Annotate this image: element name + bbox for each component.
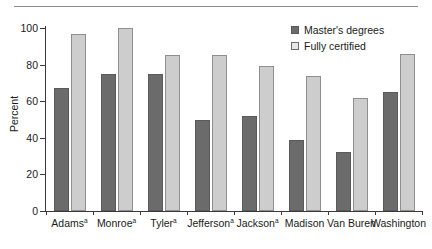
- legend-label: Fully certified: [304, 39, 366, 53]
- bar-masters-degrees: [383, 92, 398, 211]
- x-category-label: Washington: [365, 217, 432, 229]
- chart-legend: Master's degreesFully certified: [291, 23, 384, 55]
- x-tick-mark: [140, 211, 141, 215]
- legend-label: Master's degrees: [304, 23, 384, 37]
- y-tick-mark: [40, 28, 45, 29]
- bar-fully-certified: [306, 76, 321, 211]
- bar-masters-degrees: [54, 88, 69, 211]
- y-tick-mark: [40, 211, 45, 212]
- bar-fully-certified: [165, 55, 180, 211]
- legend-item: Master's degrees: [291, 23, 384, 37]
- x-tick-mark: [328, 211, 329, 215]
- bar-masters-degrees: [101, 74, 116, 211]
- x-tick-mark: [281, 211, 282, 215]
- bar-fully-certified: [400, 54, 415, 211]
- legend-item: Fully certified: [291, 39, 384, 53]
- x-tick-mark: [187, 211, 188, 215]
- bar-masters-degrees: [242, 116, 257, 211]
- bar-chart-figure: Percent 020406080100 AdamsaMonroeaTylera…: [0, 0, 432, 249]
- top-divider-rule: [14, 6, 418, 7]
- y-tick-mark: [40, 101, 45, 102]
- x-tick-mark: [46, 211, 47, 215]
- bar-fully-certified: [353, 98, 368, 211]
- bar-fully-certified: [71, 34, 86, 212]
- y-tick-label: 40: [4, 133, 38, 143]
- x-tick-mark: [234, 211, 235, 215]
- x-tick-mark: [93, 211, 94, 215]
- legend-swatch-icon: [291, 26, 299, 34]
- bar-masters-degrees: [148, 74, 163, 211]
- x-tick-mark: [422, 211, 423, 215]
- y-tick-label: 80: [4, 60, 38, 70]
- y-tick-label: 60: [4, 96, 38, 106]
- bar-fully-certified: [259, 66, 274, 211]
- y-tick-mark: [40, 138, 45, 139]
- legend-swatch-icon: [291, 42, 299, 50]
- bar-masters-degrees: [289, 140, 304, 211]
- plot-area: [46, 28, 422, 211]
- y-tick-label: 0: [4, 206, 38, 216]
- bar-masters-degrees: [195, 120, 210, 212]
- bar-masters-degrees: [336, 152, 351, 211]
- x-tick-mark: [375, 211, 376, 215]
- y-tick-mark: [40, 65, 45, 66]
- y-tick-label: 20: [4, 169, 38, 179]
- y-tick-label: 100: [4, 23, 38, 33]
- bar-fully-certified: [212, 55, 227, 211]
- bar-fully-certified: [118, 28, 133, 211]
- y-tick-mark: [40, 174, 45, 175]
